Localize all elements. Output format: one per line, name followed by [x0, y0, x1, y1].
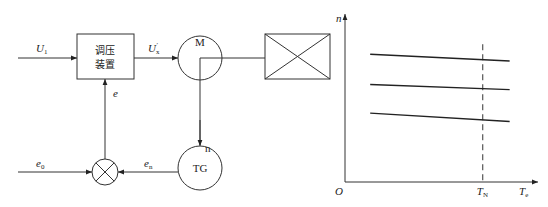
series-line-low-speed: [370, 113, 509, 121]
rated-torque-label: TN: [477, 185, 488, 199]
diagram-canvas: U1 调压 装置 Ux′ M n TG e0: [0, 0, 548, 207]
regulator-output-label: Ux′: [148, 41, 160, 56]
error-e-label: e: [113, 87, 118, 99]
regulator-label-line1: 调压: [95, 45, 115, 56]
load-box: [265, 34, 330, 79]
origin-label: O: [335, 185, 343, 197]
summing-junction: [92, 159, 118, 185]
y-axis-label: n: [336, 12, 342, 24]
regulator-box: [77, 34, 134, 79]
series-line-mid-speed: [370, 85, 509, 90]
input-u1-label: U1: [36, 42, 48, 56]
series-line-high-speed: [370, 54, 509, 61]
reference-e0-label: e0: [36, 157, 45, 171]
motor-shaft-line: [200, 58, 265, 145]
regulator-label-line2: 装置: [95, 58, 115, 70]
block-diagram: U1 调压 装置 Ux′ M n TG e0: [18, 34, 330, 190]
feedback-en-label: en: [144, 157, 153, 171]
tachogenerator-label: TG: [193, 162, 208, 174]
x-axis-label: Te: [519, 185, 528, 199]
speed-torque-chart: n O Te TN: [335, 12, 538, 199]
motor-label: M: [195, 36, 205, 48]
series-group: [370, 54, 509, 121]
